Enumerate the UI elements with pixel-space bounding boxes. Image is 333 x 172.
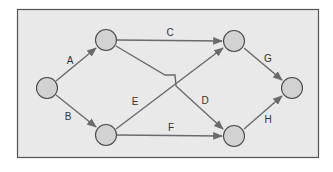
edge-f-arrow (117, 135, 222, 136)
edge-label-c: C (166, 27, 173, 38)
node-2 (96, 30, 117, 51)
node-6 (282, 78, 303, 99)
node-5 (224, 126, 245, 147)
edge-label-g: G (264, 53, 272, 64)
edge-label-e: E (132, 96, 139, 107)
edge-label-d: D (201, 95, 208, 106)
network-diagram: A B C D E F G H (0, 0, 333, 172)
edge-label-b: B (65, 111, 72, 122)
node-1 (37, 78, 58, 99)
node-4 (224, 31, 245, 52)
node-3 (96, 125, 117, 146)
edge-c-arrow (117, 40, 222, 41)
edge-label-f: F (168, 122, 174, 133)
edge-label-h: H (264, 114, 271, 125)
edge-label-a: A (67, 55, 74, 66)
